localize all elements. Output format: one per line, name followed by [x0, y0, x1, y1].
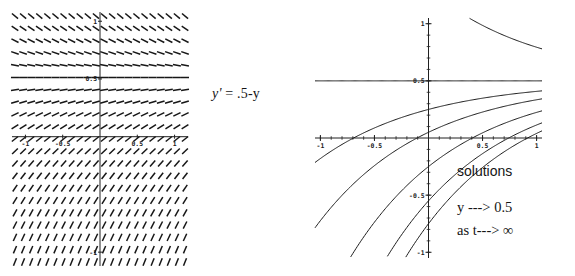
- solution-curves-plot: -1-0.50.51-1-0.50.51: [290, 0, 575, 276]
- y-tick-label: -0.5: [409, 192, 425, 200]
- x-tick-label: 0.5: [132, 140, 144, 148]
- x-tick-label: 0.5: [477, 142, 489, 150]
- solution-curve: [470, 18, 542, 49]
- annotation-limit-y: y ---> 0.5: [457, 199, 512, 216]
- y-tick-label: -1: [417, 249, 425, 257]
- figure-root: -1-0.50.51-10.51 y' = .5-y -1-0.50.51-1-…: [0, 0, 575, 276]
- slope-field-plot: -1-0.50.51-10.51: [0, 0, 290, 276]
- y-tick-label: 0.5: [413, 77, 425, 85]
- y-tick-label: 1: [421, 20, 425, 28]
- solution-curves-canvas: -1-0.50.51-1-0.50.51: [290, 0, 575, 276]
- annotation-solutions: solutions: [457, 163, 512, 179]
- equation-lhs: y': [212, 86, 222, 101]
- equation-label: y' = .5-y: [212, 86, 260, 102]
- x-tick-label: -0.5: [55, 140, 71, 148]
- equation-rhs: .5-y: [237, 86, 260, 101]
- y-tick-label: 1: [93, 18, 97, 26]
- x-tick-label: -0.5: [367, 142, 383, 150]
- x-tick-label: 1: [535, 142, 539, 150]
- equation-eq: =: [222, 86, 238, 101]
- y-tick-label: -1: [89, 249, 97, 257]
- annotation-limit-t: as t---> ∞: [457, 222, 513, 239]
- x-tick-label: -1: [22, 140, 30, 148]
- x-tick-label: 1: [173, 140, 177, 148]
- slope-field-canvas: -1-0.50.51-10.51: [0, 0, 290, 276]
- y-tick-label: 0.5: [85, 75, 97, 83]
- x-tick-label: -1: [317, 142, 325, 150]
